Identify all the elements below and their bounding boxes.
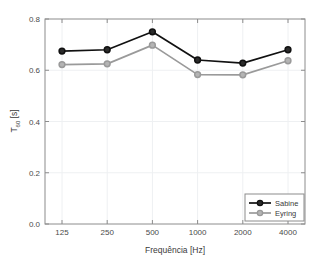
x-tick-label: 250 <box>101 228 115 237</box>
data-point-marker <box>104 61 110 67</box>
legend-label-eyring: Eyring <box>275 209 296 218</box>
x-tick-label: 2000 <box>234 228 252 237</box>
y-tick-label: 0.2 <box>29 169 41 178</box>
y-tick-label: 0.4 <box>29 118 41 127</box>
x-axis-title: Frequência [Hz] <box>145 245 205 255</box>
data-point-marker <box>195 57 201 63</box>
y-tick-label: 0.6 <box>29 66 41 75</box>
y-axis-title-unit: [s] <box>9 109 19 120</box>
data-point-marker <box>104 47 110 53</box>
line-chart: 125250500100020004000 0.00.20.40.60.8 Fr… <box>0 0 328 263</box>
legend[interactable]: Sabine Eyring <box>245 194 304 221</box>
data-point-marker <box>59 48 65 54</box>
legend-swatch-eyring-marker <box>257 210 262 215</box>
data-point-marker <box>195 72 201 78</box>
chart-figure: 125250500100020004000 0.00.20.40.60.8 Fr… <box>0 0 328 263</box>
x-tick-label: 1000 <box>189 228 207 237</box>
data-point-marker <box>150 29 156 35</box>
y-tick-label: 0.0 <box>29 220 41 229</box>
x-tick-label: 500 <box>146 228 160 237</box>
data-point-marker <box>240 60 246 66</box>
y-axis-title: T60 [s] <box>9 109 21 132</box>
x-tick-labels: 125250500100020004000 <box>55 228 297 237</box>
legend-label-sabine: Sabine <box>275 199 298 208</box>
x-tick-label: 125 <box>55 228 69 237</box>
y-tick-label: 0.8 <box>29 15 41 24</box>
data-point-marker <box>59 62 65 68</box>
data-point-marker <box>285 58 291 64</box>
y-tick-labels: 0.00.20.40.60.8 <box>29 15 41 229</box>
x-tick-label: 4000 <box>279 228 297 237</box>
data-point-marker <box>150 42 156 48</box>
data-point-marker <box>240 72 246 78</box>
legend-swatch-sabine-marker <box>257 200 262 205</box>
data-point-marker <box>285 47 291 53</box>
svg-text:T60 [s]: T60 [s] <box>9 109 21 132</box>
